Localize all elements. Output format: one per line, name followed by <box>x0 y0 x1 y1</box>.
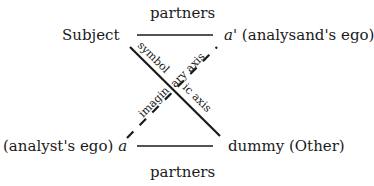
a-prime-node: a' (analysand's ego) <box>224 28 374 43</box>
symbolic-axis-label-2: ic axis <box>180 81 214 115</box>
bottom-partners-label: partners <box>150 165 215 180</box>
a-prime-symbol: a' <box>224 26 237 44</box>
dummy-node: dummy (Other) <box>228 139 345 154</box>
imaginary-axis-label-1: imagin <box>136 84 172 120</box>
a-description: (analyst's ego) <box>3 137 113 155</box>
a-node: (analyst's ego) a <box>3 139 127 154</box>
a-symbol: a <box>118 137 127 155</box>
subject-node: Subject <box>62 28 120 43</box>
top-partners-label: partners <box>150 6 215 21</box>
a-prime-description: (analysand's ego) <box>242 26 374 44</box>
